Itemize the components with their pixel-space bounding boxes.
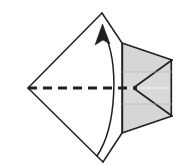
lower-flap-highlight — [122, 89, 172, 105]
upper-flap-highlight — [122, 72, 172, 88]
figure-container — [0, 0, 193, 166]
origami-fold-diagram — [0, 0, 193, 166]
